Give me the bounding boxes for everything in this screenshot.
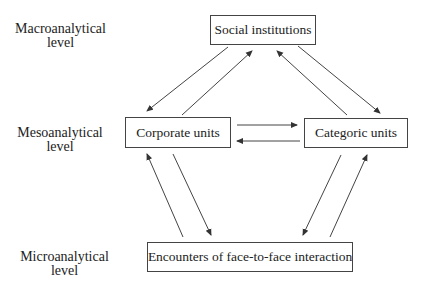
arrow-social-to-corporate bbox=[147, 47, 228, 111]
node-social-institutions: Social institutions bbox=[210, 15, 316, 45]
node-encounters-label: Encounters of face-to-face interaction bbox=[148, 249, 352, 265]
arrow-categoric-to-encounters bbox=[303, 155, 341, 235]
arrow-encounters-to-corporate bbox=[147, 154, 183, 237]
arrow-social-to-categoric bbox=[298, 46, 380, 113]
node-social-institutions-label: Social institutions bbox=[214, 22, 311, 38]
arrow-categoric-to-social bbox=[277, 51, 347, 115]
arrow-corporate-to-encounters bbox=[173, 154, 211, 235]
node-corporate-units: Corporate units bbox=[125, 117, 231, 148]
node-corporate-units-label: Corporate units bbox=[136, 125, 220, 141]
node-categoric-units: Categoric units bbox=[304, 118, 408, 148]
arrow-corporate-to-social bbox=[182, 51, 252, 115]
node-encounters: Encounters of face-to-face interaction bbox=[147, 242, 353, 272]
node-categoric-units-label: Categoric units bbox=[315, 125, 397, 141]
